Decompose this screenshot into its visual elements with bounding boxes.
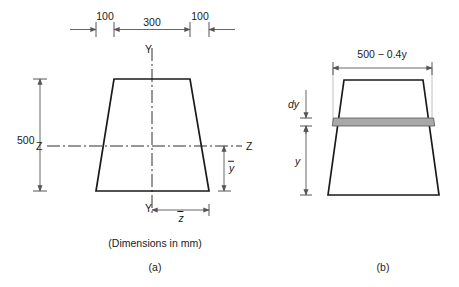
panel-b-caption: (b) <box>377 262 390 273</box>
centroid-distance-zbar: z <box>178 213 183 224</box>
centroid-distance-ybar: y <box>229 163 234 174</box>
dimension-label-left-100: 100 <box>96 11 114 22</box>
trapezoid-section-a <box>96 79 209 191</box>
axis-label-z-left: Z <box>36 141 42 152</box>
dimension-label-middle-300: 300 <box>143 17 161 28</box>
panel-a-caption: (a) <box>149 262 162 273</box>
elemental-strip <box>332 118 434 126</box>
strip-width-expression: 500 − 0.4y <box>357 49 406 60</box>
ybar-symbol: y <box>229 163 234 174</box>
axis-label-y-top: Y <box>145 44 152 55</box>
trapezoid-section-b <box>328 80 439 195</box>
axis-label-y-bottom: Y <box>145 203 152 214</box>
dimension-label-right-100: 100 <box>191 11 209 22</box>
figure-vector-layer <box>0 0 459 287</box>
dimension-label-height-500: 500 <box>17 135 35 146</box>
units-note: (Dimensions in mm) <box>108 238 201 249</box>
engineering-figure: 100 300 100 500 Y Y Z Z y z (Dimensions … <box>0 0 459 287</box>
strip-thickness-label: dy <box>288 99 299 110</box>
axis-label-z-right: Z <box>246 141 252 152</box>
panel-b-y-dimension <box>300 126 312 195</box>
panel-a-height-dimension <box>33 79 47 191</box>
strip-height-label: y <box>295 156 300 167</box>
panel-b-width-dimension <box>333 62 432 122</box>
zbar-symbol: z <box>178 213 183 224</box>
